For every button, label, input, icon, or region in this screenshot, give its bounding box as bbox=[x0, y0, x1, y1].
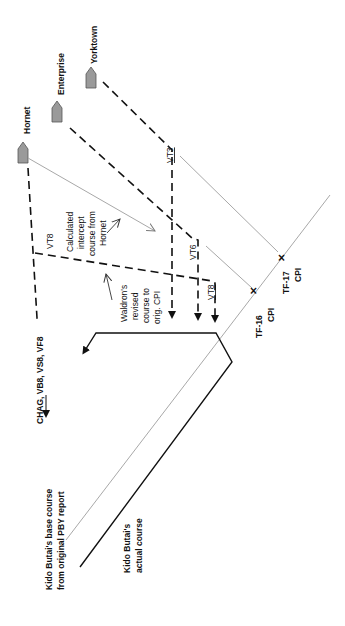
vt3-label: VT3 bbox=[165, 147, 175, 163]
carrier-yorktown: Yorktown bbox=[86, 26, 99, 88]
cpi-sublabel: CPI bbox=[293, 268, 303, 282]
cpi-label: TF-16 bbox=[254, 315, 264, 338]
carrier-label: Yorktown bbox=[89, 26, 99, 64]
annotation-line: Kido Butai's bbox=[122, 523, 132, 573]
annotation-line: Kido Butai's base course bbox=[44, 489, 54, 590]
carrier-label: Enterprise bbox=[56, 53, 66, 95]
intercept-pointer-arrow bbox=[107, 219, 120, 233]
yorktown-dashed-course bbox=[103, 82, 172, 316]
carrier-hornet: Hornet bbox=[18, 106, 32, 163]
ship-icon bbox=[52, 101, 62, 122]
annotation-line: intercept bbox=[76, 216, 86, 249]
x-mark-icon: × bbox=[278, 251, 285, 265]
midway-course-diagram: Hornet Enterprise Yorktown × TF-16 CPI ×… bbox=[0, 0, 345, 626]
vt6-label: VT6 bbox=[188, 244, 198, 260]
annotation-line: Hornet bbox=[98, 220, 108, 246]
annotation-line: Waldron's bbox=[119, 285, 129, 322]
tf17-cpi-marker: × TF-17 CPI bbox=[278, 251, 303, 294]
yorktown-gray-course bbox=[180, 156, 278, 252]
tf16-cpi-marker: × TF-16 CPI bbox=[250, 284, 276, 338]
carrier-label: Hornet bbox=[22, 106, 32, 134]
annotation-line: orig. CPI bbox=[152, 291, 162, 324]
actual-course-annotation: Kido Butai's actual course bbox=[122, 518, 144, 573]
carrier-enterprise: Enterprise bbox=[52, 53, 66, 122]
hornet-group-label: CHAG, VB8, VS8, VF8 bbox=[35, 336, 45, 424]
hornet-dashed-course bbox=[28, 168, 38, 322]
ship-icon bbox=[18, 142, 28, 163]
base-course-annotation: Kido Butai's base course from original P… bbox=[44, 489, 66, 590]
annotation-line: course to bbox=[141, 288, 151, 323]
annotation-line: actual course bbox=[134, 518, 144, 573]
vt8-lower-label: VT8 bbox=[206, 284, 216, 300]
x-mark-icon: × bbox=[250, 284, 257, 298]
cpi-sublabel: CPI bbox=[266, 308, 276, 322]
intercept-annotation: Calculated intercept course from Hornet bbox=[65, 211, 108, 256]
cpi-label: TF-17 bbox=[281, 271, 291, 294]
actual-course-line bbox=[80, 333, 232, 567]
waldron-pointer-arrow bbox=[106, 274, 112, 300]
ship-icon bbox=[86, 67, 96, 88]
annotation-line: course from bbox=[87, 211, 97, 256]
vt8-upper-label: VT8 bbox=[45, 233, 55, 249]
annotation-line: Calculated bbox=[65, 212, 75, 252]
annotation-line: revised bbox=[130, 292, 140, 320]
annotation-line: from original PBY report bbox=[56, 491, 66, 590]
enterprise-gray-course bbox=[206, 246, 252, 288]
waldron-annotation: Waldron's revised course to orig. CPI bbox=[119, 285, 162, 324]
